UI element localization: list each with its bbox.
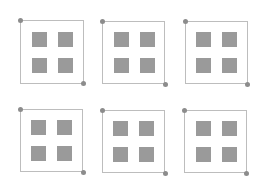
frame-1[interactable] (20, 20, 84, 84)
inner-square (196, 147, 211, 162)
inner-square (222, 121, 237, 136)
inner-square (57, 120, 72, 135)
frame-3[interactable] (185, 21, 248, 84)
inner-square (222, 58, 237, 73)
inner-square (32, 58, 47, 73)
inner-square (140, 32, 155, 47)
frame-6[interactable] (184, 110, 247, 173)
resize-handle-bottom-right[interactable] (245, 82, 250, 87)
diagram-canvas (0, 0, 264, 186)
resize-handle-top-left[interactable] (100, 19, 105, 24)
frame-4[interactable] (20, 109, 83, 172)
inner-square (139, 147, 154, 162)
resize-handle-top-left[interactable] (100, 108, 105, 113)
resize-handle-top-left[interactable] (183, 19, 188, 24)
frame-5[interactable] (102, 110, 165, 173)
resize-handle-bottom-right[interactable] (81, 170, 86, 175)
inner-square (113, 121, 128, 136)
inner-square (222, 32, 237, 47)
inner-square (32, 32, 47, 47)
inner-square (113, 147, 128, 162)
inner-square (58, 58, 73, 73)
inner-square (196, 121, 211, 136)
resize-handle-bottom-right[interactable] (244, 171, 249, 176)
inner-square (31, 120, 46, 135)
inner-square (57, 146, 72, 161)
inner-square (222, 147, 237, 162)
inner-square (114, 32, 129, 47)
inner-square (58, 32, 73, 47)
inner-square (139, 121, 154, 136)
resize-handle-top-left[interactable] (182, 108, 187, 113)
resize-handle-bottom-right[interactable] (81, 81, 86, 86)
resize-handle-bottom-right[interactable] (163, 171, 168, 176)
inner-square (140, 58, 155, 73)
resize-handle-top-left[interactable] (18, 107, 23, 112)
resize-handle-top-left[interactable] (18, 18, 23, 23)
inner-square (196, 58, 211, 73)
frame-2[interactable] (102, 21, 165, 84)
resize-handle-bottom-right[interactable] (163, 82, 168, 87)
inner-square (196, 32, 211, 47)
inner-square (31, 146, 46, 161)
inner-square (114, 58, 129, 73)
